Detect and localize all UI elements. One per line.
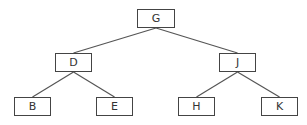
node-h: H [178,97,215,116]
node-d: D [55,53,92,72]
node-k: K [261,97,298,116]
edge-g-d [74,28,157,53]
node-j: J [219,53,256,72]
node-label: B [29,100,37,113]
edge-d-b [33,72,74,97]
node-g: G [137,9,175,28]
edge-j-k [238,72,280,97]
node-label: E [111,100,118,113]
node-label: D [69,56,77,69]
node-label: G [152,12,161,25]
tree-diagram: G D J B E H K [0,0,307,125]
edge-j-h [197,72,238,97]
node-e: E [96,97,133,116]
edge-d-e [74,72,115,97]
node-label: H [192,100,200,113]
node-label: J [236,56,239,69]
node-label: K [276,100,283,113]
node-b: B [14,97,51,116]
edge-g-j [156,28,238,53]
